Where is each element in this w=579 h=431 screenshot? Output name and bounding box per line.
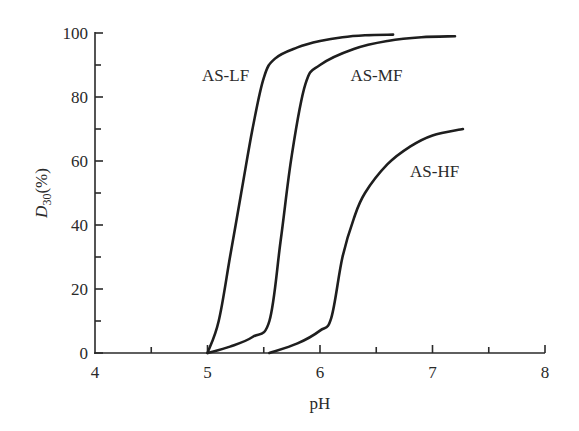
x-axis-title: pH [310,394,331,413]
y-axis-title-unit: (%) [32,168,51,193]
y-axis-title-main: D [32,205,51,219]
y-tick-label: 20 [71,280,88,299]
label-as-lf: AS-LF [202,66,249,85]
y-tick-label: 0 [80,344,89,363]
x-tick-label: 8 [541,363,550,382]
series-labels: AS-LFAS-MFAS-HF [202,66,459,181]
x-ticks: 45678 [91,345,550,382]
x-tick-label: 7 [428,363,437,382]
axes: 020406080100 45678 [63,24,550,382]
y-tick-label: 100 [63,24,89,43]
y-axis-title-sub: 30 [40,194,54,206]
chart: 020406080100 45678 AS-LFAS-MFAS-HF pH D3… [0,0,579,431]
y-tick-label: 60 [71,152,88,171]
x-tick-label: 5 [203,363,212,382]
y-tick-label: 40 [71,216,88,235]
y-tick-label: 80 [71,88,88,107]
y-axis-title: D30(%) [32,168,54,219]
x-tick-label: 6 [316,363,325,382]
y-ticks: 020406080100 [63,24,104,363]
label-as-mf: AS-MF [350,66,402,85]
x-tick-label: 4 [91,363,100,382]
label-as-hf: AS-HF [410,162,459,181]
